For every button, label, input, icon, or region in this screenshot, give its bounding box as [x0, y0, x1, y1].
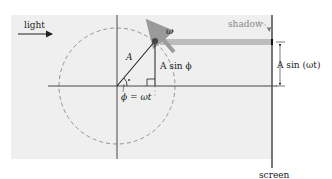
vertical-component-label: A sin ϕ — [159, 61, 192, 71]
rotating-point — [152, 38, 158, 44]
amplitude-label: A — [125, 52, 133, 62]
rotating-phasor-diagram: light ω A A sin ϕ ϕ = ωt shadow A sin (ω… — [0, 0, 332, 179]
omega-label: ω — [166, 26, 174, 36]
shadow-label: shadow — [228, 19, 263, 29]
shadow-height-label: A sin (ωt) — [276, 60, 321, 70]
diagram-panel — [11, 15, 272, 159]
angle-dot — [128, 79, 130, 81]
light-label: light — [24, 20, 45, 30]
shadow-bar — [160, 39, 272, 45]
angle-label: ϕ = ωt — [121, 92, 152, 102]
screen-label: screen — [259, 170, 290, 179]
